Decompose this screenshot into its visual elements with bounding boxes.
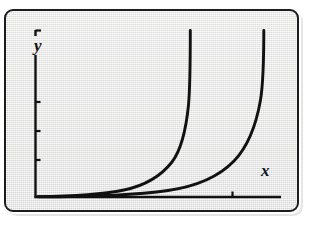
y-axis-label: y [34,37,42,54]
figure-root: y x [0,0,309,230]
x-axis-label: x [261,162,270,179]
chart-frame [4,9,299,212]
